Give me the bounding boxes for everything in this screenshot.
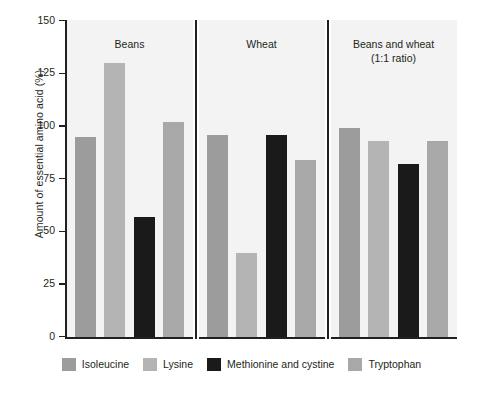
bar [368,141,389,337]
legend-label: Methionine and cystine [227,359,334,370]
bar [207,135,228,337]
y-axis-tick-label: 75 [0,173,55,183]
bar [134,217,155,337]
bar [398,164,419,337]
bar [236,253,257,337]
legend-label: Isoleucine [82,359,129,370]
legend-swatch-icon [207,358,221,371]
legend-item: Lysine [143,358,193,371]
bar [339,128,360,337]
bar [266,135,287,337]
panel-divider [327,20,329,339]
chart-panel: Wheat [199,20,325,339]
bar-group [67,21,193,337]
bar [104,63,125,337]
y-axis-tick-label: 0 [0,331,55,341]
bar [75,137,96,337]
panel-baseline [331,337,457,339]
legend-label: Tryptophan [368,359,421,370]
panel-divider [195,20,197,339]
legend-item: Tryptophan [348,358,421,371]
panel-baseline [199,337,325,339]
y-axis-tick-label: 100 [0,120,55,130]
y-axis-tick [59,178,66,179]
bar [163,122,184,337]
legend-swatch-icon [348,358,362,371]
bar-group [331,21,457,337]
legend-label: Lysine [163,359,193,370]
panel-baseline [67,337,193,339]
legend-swatch-icon [143,358,157,371]
y-axis-tick [59,231,66,232]
legend-item: Methionine and cystine [207,358,334,371]
chart-legend: IsoleucineLysineMethionine and cystineTr… [0,358,483,371]
bar-chart-figure: Amount of essential amino acid (%) 02550… [0,0,483,398]
y-axis-tick [59,73,66,74]
y-axis-tick-label: 150 [0,15,55,25]
chart-panel: Beans [67,20,193,339]
y-axis-tick [59,283,66,284]
bar [295,160,316,337]
chart-panel: Beans and wheat(1:1 ratio) [331,20,457,339]
y-axis-tick-label: 50 [0,225,55,235]
legend-item: Isoleucine [62,358,129,371]
y-axis-tick [59,20,66,21]
y-axis-tick-label: 25 [0,278,55,288]
bar [427,141,448,337]
y-axis-tick-label: 125 [0,67,55,77]
legend-swatch-icon [62,358,76,371]
bar-group [199,21,325,337]
y-axis-tick [59,336,66,337]
y-axis-tick [59,125,66,126]
